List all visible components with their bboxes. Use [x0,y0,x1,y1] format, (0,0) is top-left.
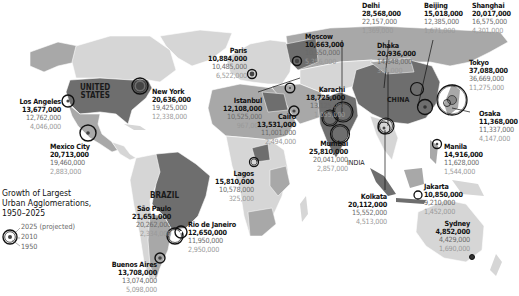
legend-item-2025: 2025 (projected) [21,222,75,231]
city-label-osaka: Osaka 11,368,000 11,337,000 4,147,000 [479,110,518,143]
city-label-delhi: Delhi 28,568,000 22,157,000 1,369,000 [362,2,401,35]
new-zealand [490,254,502,276]
city-label-paris: Paris 10,884,000 10,485,000 6,522,000 [208,47,247,80]
city-label-moscow: Moscow 10,663,000 10,550,000 5,356,000 [305,33,344,66]
borneo [404,168,424,188]
city-label-mexico-city: Mexico City 20,713,000 19,460,000 2,883,… [50,143,90,176]
city-label-rio-de-janeiro: Rio de Janeiro 12,650,000 11,950,000 2,9… [188,221,236,254]
city-label-beijing: Beijing 15,018,000 12,385,000 1,671,000 [424,2,463,35]
country-label-india: INDIA [347,159,365,167]
city-label-manila: Manila 14,916,000 11,628,000 1,544,000 [444,143,483,176]
south-africa [248,208,276,236]
country-label-china: CHINA [387,96,409,104]
city-label-buenos-aires: Buenos Aires 13,708,000 13,074,000 5,098… [112,261,157,294]
java [396,198,426,204]
city-label-sydney: Sydney 4,852,000 4,429,000 1,690,000 [435,220,470,253]
city-label-shanghai: Shanghai 20,017,000 16,575,000 4,301,000 [472,2,511,35]
madagascar [300,196,308,222]
legend-symbol [3,228,20,246]
legend: Growth of Largest Urban Agglomerations, … [2,188,91,218]
city-label-dhaka: Dhaka 20,936,000 14,648,000 336,000 [377,42,416,75]
city-label-kolkata: Kolkata 20,112,000 15,552,000 4,513,000 [348,193,387,226]
city-label-mumbai: Mumbai 25,810,000 20,041,000 2,857,000 [309,140,348,173]
city-label-sao-paulo: São Paulo 21,651,000 20,262,000 2,334,00… [132,205,171,238]
city-label-new-york: New York 20,636,000 19,425,000 12,338,00… [152,88,191,121]
legend-item-1950: 1950 [21,242,37,251]
legend-title: Growth of Largest Urban Agglomerations, … [2,188,91,218]
alaska [30,42,78,72]
city-label-lagos: Lagos 15,810,000 10,578,000 325,000 [215,170,254,203]
city-label-jakarta: Jakarta 10,850,000 9,210,000 1,452,000 [424,183,463,216]
country-label-brazil: BRAZIL [150,192,179,200]
city-label-los-angeles: Los Angeles 13,677,000 12,762,000 4,046,… [19,98,61,131]
legend-item-2010: 2010 [21,232,37,241]
city-label-tokyo: Tokyo 37,088,000 36,669,000 11,275,000 [469,59,508,92]
country-label-us: UNITED STATES [80,84,110,100]
city-label-karachi: Karachi 18,725,000 13,125,000 1,055,000 [306,86,345,119]
canada [72,36,176,82]
city-label-cairo: Cairo 13,531,000 11,001,000 2,494,000 [257,113,296,146]
